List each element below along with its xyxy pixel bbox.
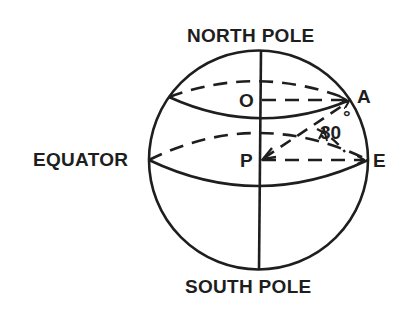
equator-label: EQUATOR — [33, 150, 128, 169]
point-e-label: E — [373, 151, 386, 170]
north-pole-label: NORTH POLE — [187, 26, 315, 45]
point-p-label: P — [240, 151, 253, 170]
point-o-label: O — [239, 91, 254, 110]
point-a-label: A — [357, 87, 371, 106]
angle-value-label: 30 — [320, 123, 341, 142]
angle-degree-symbol: ° — [343, 107, 351, 126]
south-pole-label: SOUTH POLE — [185, 277, 312, 296]
